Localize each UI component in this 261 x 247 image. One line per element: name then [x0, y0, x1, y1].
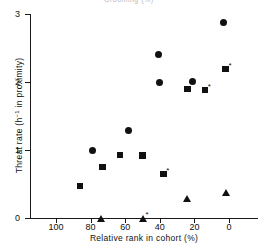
square-marker-icon [77, 183, 84, 190]
y-tick-3 [25, 14, 30, 15]
square-marker-icon [117, 152, 124, 159]
square-marker-icon [184, 86, 191, 93]
y-axis-exponent: −1 [14, 110, 20, 117]
x-tick-label-0: 0 [217, 223, 241, 232]
significance-star: * [229, 62, 232, 70]
y-tick-0 [25, 218, 30, 219]
square-marker-icon [99, 164, 106, 171]
x-axis-title: Relative rank in cohort (%) [30, 233, 258, 243]
circle-marker-icon [155, 51, 162, 58]
x-tick-label-60: 60 [113, 223, 137, 232]
y-axis-line [30, 14, 31, 219]
triangle-marker-icon [183, 195, 191, 202]
y-tick-label-0: 0 [8, 214, 20, 223]
circle-marker-icon [220, 19, 227, 26]
x-tick-label-80: 80 [79, 223, 103, 232]
circle-marker-icon [189, 78, 196, 85]
triangle-marker-icon [222, 189, 230, 196]
y-axis-title: Threat rate (h−1 in proximity) [14, 40, 25, 190]
circle-marker-icon [156, 79, 163, 86]
significance-star: * [208, 83, 211, 91]
circle-marker-icon [125, 127, 132, 134]
figure-caption-text: Grooming (%) [104, 0, 154, 3]
square-marker-icon [139, 152, 146, 159]
y-tick-1 [25, 150, 30, 151]
triangle-marker-icon [97, 215, 105, 222]
figure-caption-strip: Grooming (%) [0, 0, 261, 8]
significance-star: * [166, 167, 169, 175]
scatter-plot-figure: Grooming (%) 0123 100806040200 Threat ra… [0, 0, 261, 247]
circle-marker-icon [89, 147, 96, 154]
y-tick-label-3: 3 [8, 10, 20, 19]
x-tick-label-40: 40 [148, 223, 172, 232]
x-tick-label-100: 100 [44, 223, 68, 232]
significance-star: * [146, 211, 149, 219]
y-tick-2 [25, 82, 30, 83]
x-tick-label-20: 20 [182, 223, 206, 232]
